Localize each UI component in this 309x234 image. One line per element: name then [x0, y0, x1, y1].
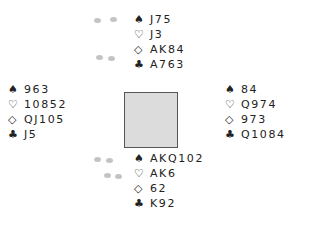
- east-clubs: ♣Q1084: [225, 127, 286, 142]
- spade-icon: ♠: [134, 151, 150, 166]
- smudge-mark: [96, 55, 103, 60]
- north-clubs: ♣A763: [134, 57, 185, 72]
- east-spades: ♠84: [225, 82, 286, 97]
- west-diamonds: ◇QJ105: [8, 112, 67, 127]
- north-spades: ♠J75: [134, 12, 185, 27]
- smudge-mark: [106, 158, 113, 163]
- east-hearts: ♡Q974: [225, 97, 286, 112]
- smudge-mark: [115, 174, 122, 179]
- spade-icon: ♠: [134, 12, 150, 27]
- west-hand: ♠963 ♡10852 ◇QJ105 ♣J5: [8, 82, 67, 142]
- diamond-icon: ◇: [134, 181, 150, 196]
- south-diamonds: ◇62: [134, 181, 204, 196]
- west-hearts: ♡10852: [8, 97, 67, 112]
- smudge-mark: [110, 17, 117, 22]
- west-clubs: ♣J5: [8, 127, 67, 142]
- north-hearts: ♡J3: [134, 27, 185, 42]
- diamond-icon: ◇: [134, 42, 150, 57]
- heart-icon: ♡: [8, 97, 24, 112]
- smudge-mark: [104, 173, 111, 178]
- south-clubs: ♣K92: [134, 196, 204, 211]
- smudge-mark: [94, 18, 101, 23]
- diamond-icon: ◇: [225, 112, 241, 127]
- spade-icon: ♠: [225, 82, 241, 97]
- heart-icon: ♡: [134, 166, 150, 181]
- spade-icon: ♠: [8, 82, 24, 97]
- club-icon: ♣: [8, 127, 24, 142]
- club-icon: ♣: [134, 57, 150, 72]
- card-table: [124, 92, 178, 148]
- east-diamonds: ◇973: [225, 112, 286, 127]
- diamond-icon: ◇: [8, 112, 24, 127]
- south-hearts: ♡AK6: [134, 166, 204, 181]
- heart-icon: ♡: [134, 27, 150, 42]
- north-hand: ♠J75 ♡J3 ◇AK84 ♣A763: [134, 12, 185, 72]
- east-hand: ♠84 ♡Q974 ◇973 ♣Q1084: [225, 82, 286, 142]
- heart-icon: ♡: [225, 97, 241, 112]
- south-hand: ♠AKQ102 ♡AK6 ◇62 ♣K92: [134, 151, 204, 211]
- west-spades: ♠963: [8, 82, 67, 97]
- north-diamonds: ◇AK84: [134, 42, 185, 57]
- club-icon: ♣: [134, 196, 150, 211]
- smudge-mark: [94, 157, 101, 162]
- smudge-mark: [108, 56, 115, 61]
- club-icon: ♣: [225, 127, 241, 142]
- south-spades: ♠AKQ102: [134, 151, 204, 166]
